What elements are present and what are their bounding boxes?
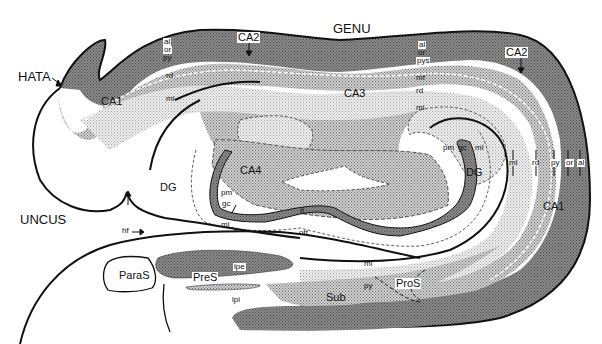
layer-rd-mid: rd xyxy=(416,87,423,95)
layer-ott: ott xyxy=(299,229,308,237)
layer-ml-dg: ml xyxy=(475,144,483,152)
layer-it: it xyxy=(300,207,304,215)
layer-pys-mid: pys xyxy=(416,57,430,65)
layer-ml-ca4: ml xyxy=(221,221,229,229)
layer-ml-lower: ml xyxy=(364,260,372,268)
label-ca3: CA3 xyxy=(344,88,365,99)
label-pros: ProS xyxy=(395,278,421,289)
layer-ml-right: ml xyxy=(509,159,517,167)
layer-ml-mid: ml xyxy=(416,104,424,112)
layer-al-right: al xyxy=(577,159,585,167)
layer-rd-left: rd xyxy=(166,72,173,80)
layer-pm-dg: pm xyxy=(443,144,454,152)
label-hata: HATA xyxy=(18,70,51,83)
label-ca1-right: CA1 xyxy=(543,201,564,212)
layer-py-sub: py xyxy=(364,282,372,290)
layer-gc-dg: gc xyxy=(458,144,466,152)
layer-py-top: py xyxy=(163,54,171,62)
lpi-strip xyxy=(186,284,260,290)
layer-pm-ca4: pm xyxy=(221,189,232,197)
layer-gc-ca4: gc xyxy=(222,200,230,208)
label-uncus: UNCUS xyxy=(20,213,66,226)
layer-hf: hf xyxy=(122,227,129,235)
label-pres: PreS xyxy=(192,272,218,283)
label-ca2-right: CA2 xyxy=(505,47,528,58)
label-dg-right: DG xyxy=(466,167,483,178)
label-paras: ParaS xyxy=(119,270,150,281)
layer-rd-right: rd xyxy=(532,159,539,167)
layer-ml-left: ml xyxy=(166,95,174,103)
lpe-blob xyxy=(156,250,293,278)
label-sub: Sub xyxy=(326,292,346,303)
layer-or-right: or xyxy=(565,159,574,167)
label-ca1-left: CA1 xyxy=(101,96,122,107)
layer-lpe: lpe xyxy=(233,263,246,271)
label-genu: GENU xyxy=(333,22,371,35)
paras-line xyxy=(163,284,170,332)
label-ca4: CA4 xyxy=(240,165,261,176)
layer-mf-mid: mf xyxy=(416,74,425,82)
layer-py-right: py xyxy=(550,159,560,167)
label-ca2-left: CA2 xyxy=(237,32,260,43)
layer-lpi: lpi xyxy=(232,296,240,304)
label-dg-left: DG xyxy=(160,182,177,193)
